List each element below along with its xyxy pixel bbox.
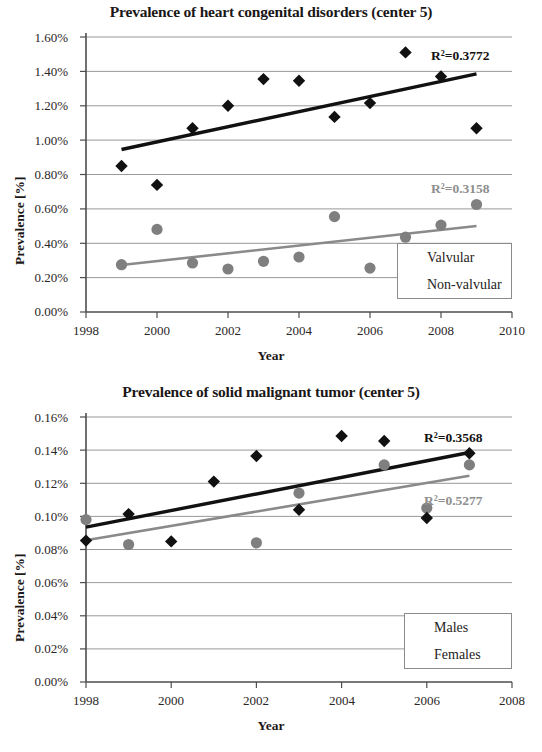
legend: Males Females — [404, 613, 512, 669]
series-valvular — [115, 46, 482, 191]
r2-annotation-valvular: R²=0.3772 — [431, 48, 490, 64]
legend-label: Males — [434, 620, 468, 636]
trendline-females — [86, 476, 469, 541]
r2-annotation-non-valvular: R²=0.3158 — [431, 181, 490, 197]
circle-marker-icon — [407, 278, 420, 291]
chart-heart-congenital-disorders: Prevalence of heart congenital disorders… — [0, 0, 542, 380]
legend-item-valvular: Valvular — [398, 244, 511, 271]
legend-label: Females — [434, 647, 481, 663]
legend-item-non-valvular: Non-valvular — [398, 271, 511, 298]
legend: Valvular Non-valvular — [397, 243, 512, 299]
r2-annotation-males: R²=0.3568 — [424, 430, 483, 446]
legend-item-females: Females — [405, 641, 511, 668]
series-females — [80, 459, 475, 550]
trendline-males — [86, 453, 469, 528]
legend-label: Non-valvular — [427, 277, 502, 293]
circle-marker-icon — [414, 648, 427, 661]
r2-annotation-females: R²=0.5277 — [424, 493, 483, 509]
diamond-marker-icon — [414, 621, 427, 634]
diamond-marker-icon — [407, 251, 420, 264]
chart-solid-malignant-tumor: Prevalence of solid malignant tumor (cen… — [0, 380, 542, 752]
figure-page: Prevalence of heart congenital disorders… — [0, 0, 542, 752]
legend-label: Valvular — [427, 250, 474, 266]
legend-item-males: Males — [405, 614, 511, 641]
